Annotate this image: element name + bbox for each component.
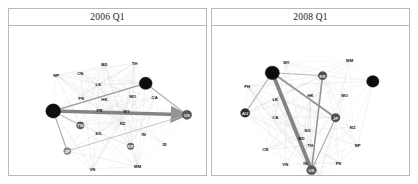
figure-root: 2006 Q1 NPCNBDTHLKPKHKMOCAMYFRNZSGINIDMM… xyxy=(0,0,418,184)
graph-node[interactable] xyxy=(64,148,71,155)
graph-node[interactable] xyxy=(307,166,317,175)
graph-nodes[interactable] xyxy=(241,66,380,175)
graph-node[interactable] xyxy=(367,75,379,87)
graph-node[interactable] xyxy=(318,72,327,80)
facet-grid: 2006 Q1 NPCNBDTHLKPKHKMOCAMYFRNZSGINIDMM… xyxy=(8,8,410,176)
facet-strip-2: 2008 Q1 xyxy=(211,8,410,25)
primary-edges xyxy=(245,73,335,170)
graph-node[interactable] xyxy=(265,66,279,80)
graph-node[interactable] xyxy=(182,110,192,119)
facet-title-1: 2006 Q1 xyxy=(90,12,124,22)
graph-node[interactable] xyxy=(331,113,340,121)
facet-panel-2: 2008 Q1 MYMMPHLKHKMOCASGNZBDTHCNNPVNINPK… xyxy=(211,8,410,176)
graph-canvas xyxy=(9,26,206,175)
graph-node[interactable] xyxy=(139,77,152,89)
facet-strip-1: 2006 Q1 xyxy=(8,8,207,25)
facet-panel-1: 2006 Q1 NPCNBDTHLKPKHKMOCAMYFRNZSGINIDMM… xyxy=(8,8,207,176)
graph-node[interactable] xyxy=(77,122,85,129)
background-edges xyxy=(53,63,187,169)
graph-node[interactable] xyxy=(241,109,250,118)
graph-canvas xyxy=(212,26,409,175)
facet-title-2: 2008 Q1 xyxy=(293,12,327,22)
graph-node[interactable] xyxy=(46,104,61,118)
network-graph-2006q1[interactable]: NPCNBDTHLKPKHKMOCAMYFRNZSGINIDMMVNUSTWJP… xyxy=(8,25,207,176)
network-graph-2008q1[interactable]: MYMMPHLKHKMOCASGNZBDTHCNNPVNINPKIDKRAUJP… xyxy=(211,25,410,176)
background-edges xyxy=(245,60,373,175)
graph-node[interactable] xyxy=(127,143,134,149)
